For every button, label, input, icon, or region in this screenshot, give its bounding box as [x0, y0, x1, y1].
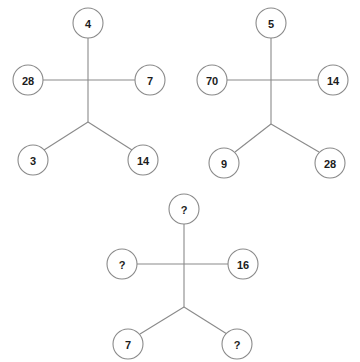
node-circle [13, 65, 43, 95]
figure-1-bottom-right-leg-line [88, 122, 132, 150]
node-circle [107, 249, 137, 279]
figure-1: 4 28 7 3 14 [13, 8, 165, 175]
node-circle [18, 145, 48, 175]
figure-3-node-bottom-left: 7 [113, 329, 143, 359]
figure-2-node-top: 5 [256, 8, 286, 38]
figure-2-node-bottom-right: 28 [315, 148, 345, 178]
figure-1-node-bottom-left: 3 [18, 145, 48, 175]
figure-1-node-bottom-right: 14 [128, 145, 158, 175]
node-circle [228, 249, 258, 279]
node-circle [315, 148, 345, 178]
figure-1-node-top: 4 [73, 8, 103, 38]
figure-3-node-right: 16 [228, 249, 258, 279]
node-circle [73, 8, 103, 38]
figure-2-node-right: 14 [318, 65, 348, 95]
figure-2-node-bottom-left: 9 [209, 148, 239, 178]
node-circle [197, 65, 227, 95]
figure-3-node-left: ? [107, 249, 137, 279]
figure-3: ? ? 16 7 ? [107, 194, 258, 359]
node-circle [135, 65, 165, 95]
node-circle [222, 329, 252, 359]
figure-1-bottom-left-leg-line [44, 122, 88, 150]
figure-3-node-bottom-right: ? [222, 329, 252, 359]
node-circle [169, 194, 199, 224]
node-circle [113, 329, 143, 359]
node-circle [256, 8, 286, 38]
node-circle [209, 148, 239, 178]
figure-1-node-left: 28 [13, 65, 43, 95]
figure-2-node-left: 70 [197, 65, 227, 95]
figure-2-bottom-left-leg-line [235, 124, 271, 152]
figure-2-bottom-right-leg-line [271, 124, 319, 152]
puzzle-canvas: 4 28 7 3 14 5 70 [0, 0, 360, 362]
figure-3-bottom-left-leg-line [140, 307, 184, 334]
node-circle [128, 145, 158, 175]
node-circle [318, 65, 348, 95]
figure-2: 5 70 14 9 28 [197, 8, 348, 178]
figure-3-node-top: ? [169, 194, 199, 224]
figure-1-node-right: 7 [135, 65, 165, 95]
figure-3-bottom-right-leg-line [184, 307, 227, 334]
